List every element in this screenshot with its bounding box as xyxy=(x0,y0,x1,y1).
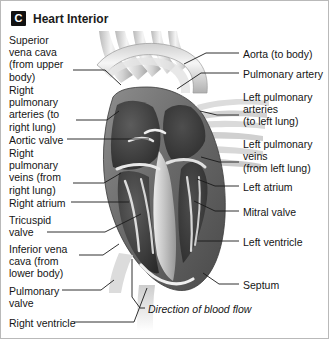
label-left-pulmonary-veins: Left pulmonary veins (from left lung) xyxy=(243,138,312,175)
label-aortic-valve: Aortic valve xyxy=(9,134,63,146)
label-right-pulmonary-veins: Right pulmonary veins (from right lung) xyxy=(9,147,61,196)
panel-header: C Heart Interior xyxy=(11,11,108,26)
label-inferior-vena-cava: Inferior vena cava (from lower body) xyxy=(9,243,67,280)
caption-direction-of-blood-flow: Direction of blood flow xyxy=(148,303,251,315)
label-left-ventricle: Left ventricle xyxy=(243,236,303,248)
label-mitral-valve: Mitral valve xyxy=(243,206,296,218)
label-septum: Septum xyxy=(243,279,279,291)
great-vessels-group xyxy=(97,31,207,93)
label-right-pulmonary-arteries: Right pulmonary arteries (to right lung) xyxy=(9,84,59,133)
label-left-pulmonary-arteries: Left pulmonary arteries (to left lung) xyxy=(243,91,312,128)
label-left-atrium: Left atrium xyxy=(243,181,293,193)
label-right-ventricle: Right ventricle xyxy=(9,317,76,329)
leader-line-right-ventricle xyxy=(74,288,147,322)
page-title: Heart Interior xyxy=(33,12,108,26)
panel-letter-badge: C xyxy=(11,11,26,26)
label-superior-vena-cava: Superior vena cava (from upper body) xyxy=(9,34,63,83)
heart-interior-figure: C Heart Interior Superior vena cava (fro… xyxy=(0,0,329,339)
label-aorta: Aorta (to body) xyxy=(243,48,312,60)
leader-line-pulmonary-valve xyxy=(62,280,114,290)
label-right-atrium: Right atrium xyxy=(9,197,66,209)
label-pulmonary-valve: Pulmonary valve xyxy=(9,285,59,309)
leader-line-inferior-vena-cava xyxy=(79,244,119,255)
label-tricuspid-valve: Tricuspid valve xyxy=(9,214,51,238)
label-pulmonary-artery: Pulmonary artery xyxy=(243,68,323,80)
